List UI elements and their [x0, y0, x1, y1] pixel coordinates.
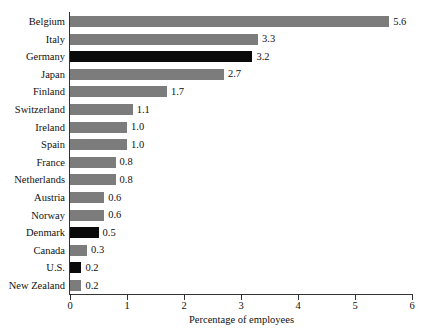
- bar-row: Denmark0.5: [0, 227, 429, 238]
- bar-row: Japan2.7: [0, 69, 429, 80]
- category-label-denmark: Denmark: [0, 227, 65, 238]
- category-label-ireland: Ireland: [0, 122, 65, 133]
- bar-finland: [70, 86, 167, 97]
- value-label-ireland: 1.0: [131, 122, 144, 133]
- bar-row: Ireland1.0: [0, 122, 429, 133]
- value-label-france: 0.8: [120, 157, 133, 168]
- value-label-switzerland: 1.1: [137, 104, 150, 115]
- bar-italy: [70, 34, 258, 45]
- value-label-spain: 1.0: [131, 139, 144, 150]
- value-label-canada: 0.3: [91, 245, 104, 256]
- bar-switzerland: [70, 104, 133, 115]
- x-tick-label-0: 0: [60, 301, 80, 312]
- value-label-belgium: 5.6: [393, 16, 406, 27]
- bar-spain: [70, 139, 127, 150]
- bar-row: Switzerland1.1: [0, 104, 429, 115]
- bar-u-s: [70, 262, 81, 273]
- bar-germany: [70, 51, 252, 62]
- bar-row: France0.8: [0, 157, 429, 168]
- x-tick-label-3: 3: [231, 301, 251, 312]
- bar-belgium: [70, 16, 389, 27]
- category-label-u-s: U.S.: [0, 262, 65, 273]
- value-label-austria: 0.6: [108, 192, 121, 203]
- category-label-canada: Canada: [0, 245, 65, 256]
- bar-chart: Belgium5.6Italy3.3Germany3.2Japan2.7Finl…: [0, 0, 429, 333]
- bar-row: Netherlands0.8: [0, 174, 429, 185]
- bar-norway: [70, 210, 104, 221]
- value-label-norway: 0.6: [108, 210, 121, 221]
- category-label-spain: Spain: [0, 139, 65, 150]
- category-label-new-zealand: New Zealand: [0, 280, 65, 291]
- bar-row: Belgium5.6: [0, 16, 429, 27]
- x-tick-label-2: 2: [174, 301, 194, 312]
- bar-row: Finland1.7: [0, 86, 429, 97]
- category-label-belgium: Belgium: [0, 16, 65, 27]
- value-label-denmark: 0.5: [103, 227, 116, 238]
- value-label-italy: 3.3: [262, 34, 275, 45]
- x-tick-label-5: 5: [345, 301, 365, 312]
- category-label-switzerland: Switzerland: [0, 104, 65, 115]
- value-label-netherlands: 0.8: [120, 175, 133, 186]
- bar-new-zealand: [70, 280, 81, 291]
- bar-netherlands: [70, 174, 116, 185]
- value-label-u-s: 0.2: [85, 263, 98, 274]
- bar-row: New Zealand0.2: [0, 280, 429, 291]
- bar-row: U.S.0.2: [0, 262, 429, 273]
- bar-row: Austria0.6: [0, 192, 429, 203]
- category-label-germany: Germany: [0, 51, 65, 62]
- bar-austria: [70, 192, 104, 203]
- value-label-new-zealand: 0.2: [85, 280, 98, 291]
- value-label-japan: 2.7: [228, 69, 241, 80]
- value-label-germany: 3.2: [256, 51, 269, 62]
- value-label-finland: 1.7: [171, 87, 184, 98]
- category-label-netherlands: Netherlands: [0, 174, 65, 185]
- bar-row: Germany3.2: [0, 51, 429, 62]
- bar-canada: [70, 245, 87, 256]
- bar-denmark: [70, 227, 99, 238]
- bar-japan: [70, 69, 224, 80]
- bar-row: Italy3.3: [0, 34, 429, 45]
- bar-ireland: [70, 122, 127, 133]
- bar-france: [70, 157, 116, 168]
- x-tick-label-1: 1: [117, 301, 137, 312]
- x-tick-label-6: 6: [402, 301, 422, 312]
- category-label-japan: Japan: [0, 69, 65, 80]
- bar-row: Norway0.6: [0, 210, 429, 221]
- x-axis-title: Percentage of employees: [70, 315, 413, 326]
- category-label-italy: Italy: [0, 34, 65, 45]
- bar-row: Canada0.3: [0, 245, 429, 256]
- bar-row: Spain1.0: [0, 139, 429, 150]
- x-tick-label-4: 4: [288, 301, 308, 312]
- category-label-france: France: [0, 157, 65, 168]
- category-label-austria: Austria: [0, 192, 65, 203]
- category-label-finland: Finland: [0, 86, 65, 97]
- category-label-norway: Norway: [0, 210, 65, 221]
